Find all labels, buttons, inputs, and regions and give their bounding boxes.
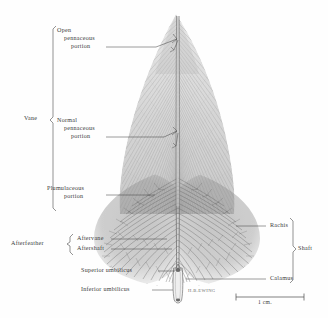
artist-signature: H.B.EWING [188,288,216,293]
label-open-pennaceous-portion: Open pennaceous portion [57,26,105,51]
label-normal-pennaceous-line2: pennaceous [57,124,105,132]
scale-bar-value: 1 cm. [258,299,272,305]
label-aftervane: Aftervane [77,235,104,243]
shaft-bracket [290,218,296,283]
afterfeather-bracket [67,234,73,255]
label-normal-pennaceous-line1: Normal [57,116,105,124]
bracket-label-shaft: Shaft [298,245,312,253]
illustration-plate: Open pennaceous portion Normal pennaceou… [0,0,328,318]
label-normal-pennaceous-line3: portion [57,132,105,140]
bracket-label-afterfeather: Afterfeather [11,240,44,248]
label-normal-pennaceous-portion: Normal pennaceous portion [57,116,105,141]
label-aftershaft: Aftershaft [77,245,104,253]
label-open-pennaceous-line1: Open [57,26,105,34]
label-superior-umbilicus: Superior umbilicus [81,267,132,275]
bracket-label-vane: Vane [24,115,37,123]
label-plumulaceous-line1: Plumulaceous [47,184,105,192]
label-open-pennaceous-line3: portion [57,42,105,50]
feather-illustration [0,0,328,318]
label-plumulaceous-line2: portion [47,192,105,200]
label-open-pennaceous-line2: pennaceous [57,34,105,42]
label-plumulaceous-portion: Plumulaceous portion [47,184,105,200]
label-inferior-umbilicus: Inferior umbilicus [81,286,130,294]
label-rachis: Rachis [270,222,288,230]
label-calamus: Calamus [270,275,293,283]
